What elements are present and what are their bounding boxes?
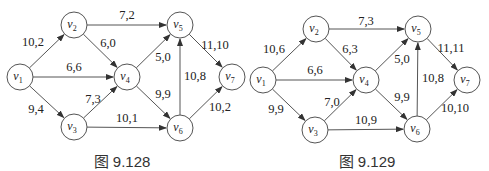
figure-caption-9-128: 图 9.128 — [94, 150, 151, 171]
node-v2: v2 — [61, 12, 87, 38]
edge-label-v2-v5: 7,3 — [358, 14, 374, 28]
edge-label-v5-v7: 11,10 — [201, 38, 229, 52]
edge-label-v6-v5: 10,8 — [184, 69, 206, 83]
node-v6: v6 — [167, 115, 193, 141]
edge-label-v2-v4: 6,0 — [100, 36, 116, 50]
node-v2: v2 — [303, 16, 329, 42]
edge-label-v5-v7: 11,11 — [437, 41, 464, 55]
edge-v3-v6 — [87, 127, 166, 128]
edge-label-v4-v5: 5,0 — [394, 52, 410, 66]
edge-label-v3-v4: 7,0 — [324, 95, 340, 109]
edge-label-v4-v6: 9,9 — [394, 90, 410, 104]
edge-label-v3-v4: 7,3 — [85, 92, 101, 106]
edge-v3-v6 — [328, 129, 403, 130]
network-flow-diagrams: 10,26,69,47,26,07,310,15,09,910,811,1010… — [0, 0, 489, 171]
edge-label-v6-v7: 10,10 — [441, 101, 469, 115]
node-v5: v5 — [405, 16, 431, 42]
node-v3: v3 — [302, 117, 328, 143]
node-v1: v1 — [7, 64, 33, 90]
edge-label-v2-v5: 7,2 — [119, 8, 135, 22]
edge-label-v4-v5: 5,0 — [155, 50, 171, 64]
edge-label-v6-v7: 10,2 — [209, 100, 231, 114]
node-v3: v3 — [61, 114, 87, 140]
edge-label-v1-v2: 10,6 — [263, 42, 285, 56]
edge-label-v1-v3: 9,9 — [268, 102, 284, 116]
edge-label-v1-v4: 6,6 — [66, 60, 82, 74]
edge-label-v4-v6: 9,9 — [155, 87, 171, 101]
edge-label-v6-v5: 10,8 — [422, 71, 444, 85]
figure-9-129-graph: 10,66,69,97,36,37,010,95,09,910,811,1110… — [250, 14, 480, 143]
figure-9-128-graph: 10,26,69,47,26,07,310,15,09,910,811,1010… — [7, 8, 245, 141]
edge-label-v1-v3: 9,4 — [28, 102, 44, 116]
edge-label-v1-v4: 6,6 — [307, 63, 323, 77]
edge-v6-v5 — [417, 43, 418, 116]
node-v1: v1 — [250, 67, 276, 93]
edge-label-v2-v4: 6,3 — [342, 42, 358, 56]
node-v5: v5 — [167, 12, 193, 38]
node-v6: v6 — [404, 116, 430, 142]
figure-caption-9-129: 图 9.129 — [339, 150, 396, 171]
node-v4: v4 — [114, 64, 140, 90]
node-v7: v7 — [219, 64, 245, 90]
edge-label-v1-v2: 10,2 — [22, 35, 44, 49]
edge-label-v3-v6: 10,1 — [116, 111, 138, 125]
edge-label-v3-v6: 10,9 — [355, 113, 377, 127]
node-v4: v4 — [353, 67, 379, 93]
node-v7: v7 — [454, 67, 480, 93]
